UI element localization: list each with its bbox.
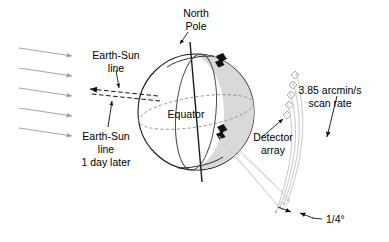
- scan-rate-label-line1: 3.85 arcmin/s: [298, 84, 361, 96]
- earth-sun-later-label-line1: Earth-Sun: [82, 130, 129, 142]
- field-of-view-label: 1/4°: [326, 213, 345, 225]
- earth-scan-geometry-diagram: North Pole Earth-Sun line Earth-Sun line…: [0, 0, 389, 242]
- earth-sun-later-label-line3: 1 day later: [81, 156, 131, 168]
- earth-sun-label-line1: Earth-Sun: [92, 49, 139, 61]
- detector-array-label-line1: Detector: [253, 131, 293, 143]
- detector-array-label-line2: array: [261, 144, 286, 156]
- north-pole-label-line2: Pole: [185, 20, 206, 32]
- earth-sun-label-line2: line: [108, 62, 125, 74]
- scan-rate-label-line2: scan rate: [308, 97, 351, 109]
- north-pole-label-line1: North: [183, 7, 209, 19]
- earth-sun-later-label-line2: line: [98, 143, 115, 155]
- equator-label: Equator: [168, 108, 205, 120]
